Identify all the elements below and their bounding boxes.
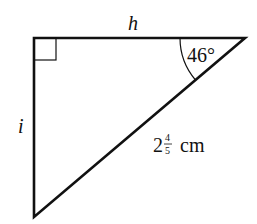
hypotenuse-denominator: 5 xyxy=(165,145,170,156)
hypotenuse-label: 2 4 5 cm xyxy=(153,132,205,156)
right-angle-marker xyxy=(34,38,56,60)
hypotenuse-numerator: 4 xyxy=(165,132,170,143)
angle-label: 46° xyxy=(187,44,215,66)
hypotenuse-whole: 2 xyxy=(153,134,163,156)
hypotenuse-unit: cm xyxy=(180,134,205,156)
triangle-diagram: h i 46° 2 4 5 cm xyxy=(0,0,257,224)
side-label-h: h xyxy=(128,12,138,34)
side-label-i: i xyxy=(18,115,24,137)
